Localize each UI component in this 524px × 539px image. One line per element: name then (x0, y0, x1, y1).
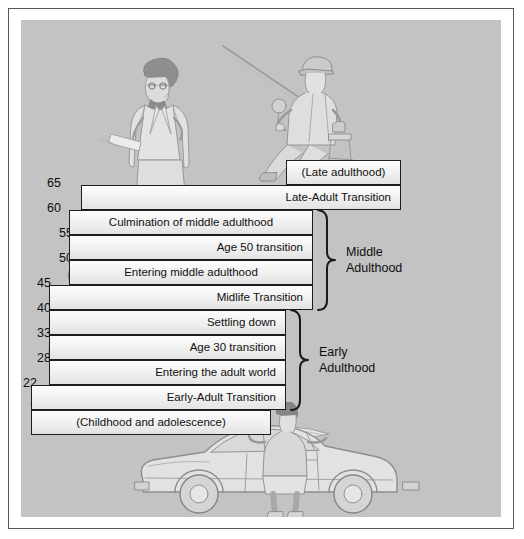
stage-label-childhood-and-adolescence: (Childhood and adolescence) (76, 417, 226, 429)
early-adulthood-bracket (289, 308, 311, 412)
stage-bar-age-30-transition: Age 30 transition (49, 335, 286, 360)
stage-bar-late-adult-transition: Late-Adult Transition (81, 185, 401, 210)
age-tick-60: 60 (27, 202, 61, 215)
age-tick-65: 65 (27, 177, 61, 190)
stage-label-age-30-transition: Age 30 transition (190, 342, 285, 354)
middle-adulthood-bracket (316, 208, 338, 312)
stage-label-midlife-transition: Midlife Transition (217, 292, 312, 304)
stage-bar-age-50-transition: Age 50 transition (69, 235, 313, 260)
stage-bar-childhood-and-adolescence: (Childhood and adolescence) (31, 410, 271, 435)
age-tick-40: 40 (21, 302, 51, 315)
life-stages-staircase-chart: 65 60 55 50 45 40 33 28 22 7 (Late adult… (21, 20, 501, 517)
stage-bar-early-adult-transition: Early-Adult Transition (31, 385, 286, 410)
stage-label-early-adult-transition: Early-Adult Transition (167, 392, 285, 404)
group-label-middle-adulthood: Middle Adulthood (346, 245, 402, 276)
age-tick-45: 45 (21, 277, 51, 290)
stage-label-entering-middle-adulthood: Entering middle adulthood (124, 267, 258, 279)
age-tick-55: 55 (39, 227, 73, 240)
stage-label-settling-down: Settling down (207, 317, 285, 329)
stage-label-entering-the-adult-world: Entering the adult world (155, 367, 285, 379)
figure-canvas: 65 60 55 50 45 40 33 28 22 7 (Late adult… (21, 20, 501, 517)
stage-bar-settling-down: Settling down (49, 310, 286, 335)
stage-label-late-adult-transition: Late-Adult Transition (286, 192, 400, 204)
stage-label-age-50-transition: Age 50 transition (217, 242, 312, 254)
age-tick-33: 33 (21, 327, 51, 340)
age-tick-28: 28 (21, 352, 51, 365)
stage-bar-culmination-of-middle-adulthood: Culmination of middle adulthood (69, 210, 313, 235)
stage-label-culmination-of-middle-adulthood: Culmination of middle adulthood (109, 217, 273, 229)
stage-label-late-adulthood: (Late adulthood) (302, 167, 386, 179)
figure-frame: 65 60 55 50 45 40 33 28 22 7 (Late adult… (8, 8, 514, 529)
stage-bar-entering-middle-adulthood: Entering middle adulthood (69, 260, 313, 285)
stage-bar-entering-the-adult-world: Entering the adult world (49, 360, 286, 385)
stage-bar-midlife-transition: Midlife Transition (49, 285, 313, 310)
age-tick-50: 50 (39, 252, 73, 265)
group-label-early-adulthood: Early Adulthood (319, 345, 375, 376)
stage-bar-late-adulthood: (Late adulthood) (286, 160, 401, 185)
